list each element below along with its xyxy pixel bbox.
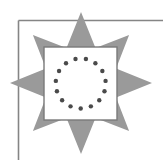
dot [54, 79, 58, 83]
dot [60, 98, 64, 102]
dot [79, 106, 83, 110]
dot [89, 104, 93, 108]
dot [57, 69, 61, 73]
dot [55, 89, 59, 93]
dot [100, 69, 104, 73]
dot [68, 104, 72, 108]
dot [84, 57, 88, 61]
dot [93, 61, 97, 65]
dot [64, 61, 68, 65]
dot [73, 57, 77, 61]
dot [103, 79, 107, 83]
dot [102, 89, 106, 93]
emblem-diagram [0, 0, 163, 160]
dot [97, 98, 101, 102]
